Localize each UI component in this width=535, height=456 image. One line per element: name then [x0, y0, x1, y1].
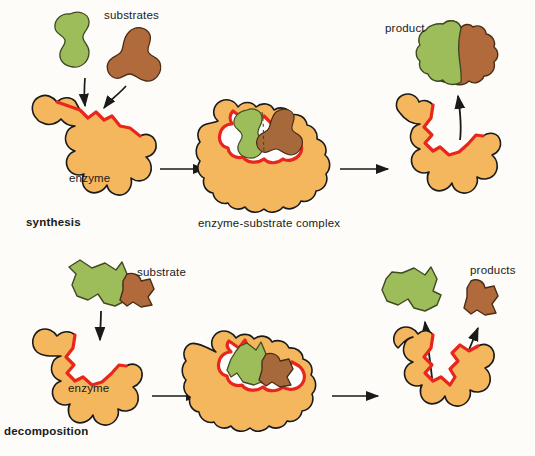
label-enzyme-bottom: enzyme: [68, 382, 109, 394]
enzyme-decomposition-free: [33, 329, 142, 425]
product-green-bottom: [382, 267, 441, 311]
label-enzyme-top: enzyme: [69, 172, 110, 184]
label-products: products: [470, 264, 516, 276]
arrow-substrate-green-into-enzyme: [84, 78, 85, 106]
enzyme-synthesis-after-release: [396, 94, 500, 193]
enzyme-action-diagram: substrates enzyme synthesis enzyme-subst…: [0, 0, 535, 456]
enzyme-substrate-complex-bottom: [182, 331, 315, 431]
arrow-substrate-into-enzyme-bottom: [100, 311, 101, 340]
substrate-green-free-top: [55, 12, 89, 67]
label-enzyme-substrate-complex: enzyme-substrate complex: [198, 217, 340, 229]
label-synthesis: synthesis: [26, 216, 81, 228]
label-substrates: substrates: [104, 9, 159, 21]
arrow-substrate-brown-into-enzyme: [104, 86, 126, 108]
product-top: [416, 21, 498, 85]
label-substrate: substrate: [137, 266, 186, 278]
product-brown-bottom: [464, 280, 498, 315]
label-decomposition: decomposition: [4, 425, 88, 437]
arrow-product-release-top: [458, 96, 461, 140]
enzyme-decomposition-after-release: [394, 327, 494, 406]
substrate-brown-free-top: [107, 28, 160, 81]
label-product: product: [385, 22, 425, 34]
enzyme-substrate-complex-top: [196, 100, 329, 212]
